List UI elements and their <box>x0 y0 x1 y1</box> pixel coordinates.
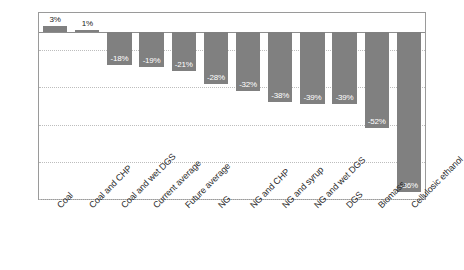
bar[interactable] <box>365 32 389 129</box>
bar-slot: 3% <box>39 13 71 199</box>
bar-value-label: -21% <box>168 60 200 69</box>
bar-value-label: -39% <box>329 93 361 102</box>
bars-layer: 3%1%-18%-19%-21%-28%-32%-38%-39%-39%-52%… <box>39 13 425 199</box>
bar-value-label: 3% <box>39 15 71 24</box>
bar-slot: -32% <box>232 13 264 199</box>
bar-value-label: -19% <box>136 56 168 65</box>
bar-value-label: -38% <box>264 91 296 100</box>
bar-slot: 1% <box>71 13 103 199</box>
bar-value-label: -39% <box>296 93 328 102</box>
bar[interactable] <box>397 32 421 192</box>
bar[interactable] <box>75 30 99 32</box>
bar[interactable] <box>43 26 67 32</box>
bar-value-label: -18% <box>103 54 135 63</box>
bar-value-label: -28% <box>200 73 232 82</box>
bar-value-label: 1% <box>71 19 103 28</box>
plot-area: 3%1%-18%-19%-21%-28%-32%-38%-39%-39%-52%… <box>38 12 426 200</box>
bar-value-label: -32% <box>232 80 264 89</box>
bar-slot: -86% <box>393 13 425 199</box>
bar-slot: -52% <box>361 13 393 199</box>
x-axis-labels: CoalCoal and CHPCoal and wet DGSCurrent … <box>38 201 426 270</box>
bar-value-label: -52% <box>361 117 393 126</box>
